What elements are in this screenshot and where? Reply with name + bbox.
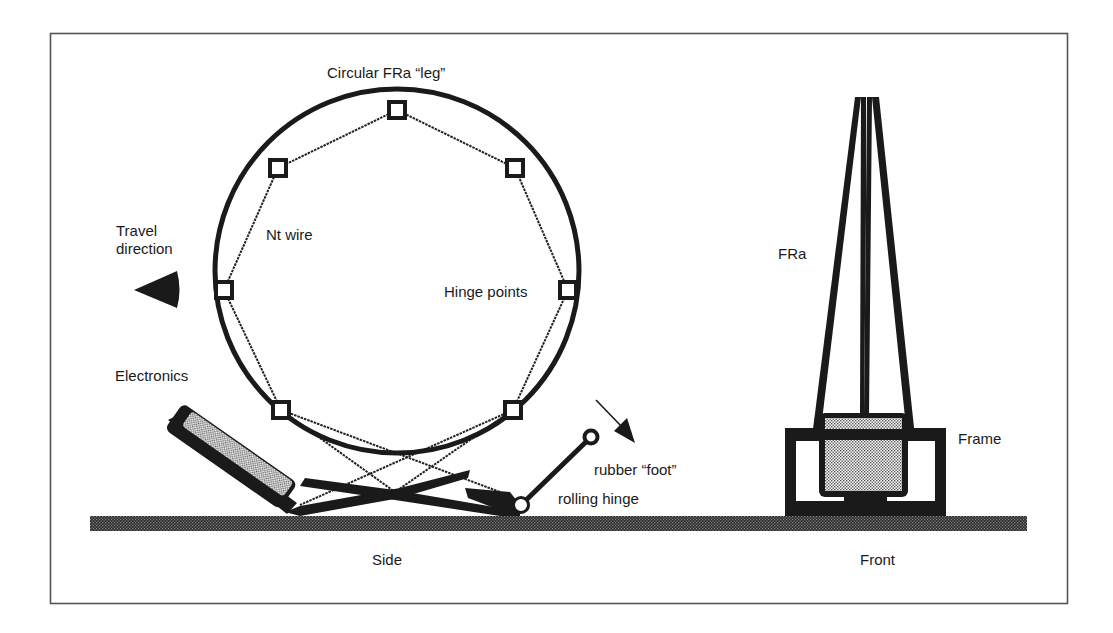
- ground-surface: [90, 516, 1027, 531]
- hinge-point-bottom-right: [505, 402, 521, 418]
- rolling-hinge: [514, 498, 529, 513]
- label-hinge-points: Hinge points: [444, 283, 527, 301]
- circular-fra-leg: [215, 89, 579, 453]
- fra-leg-right: [872, 97, 915, 437]
- leg-crossing: [285, 470, 520, 516]
- label-travel-line1: Travel: [116, 222, 157, 240]
- hinge-points: [216, 102, 576, 418]
- rubber-foot: [585, 431, 598, 444]
- hinge-point-top-left: [270, 160, 286, 176]
- front-view: [785, 97, 946, 516]
- hinge-point-top: [389, 102, 405, 118]
- label-circular-fra-leg: Circular FRa “leg”: [327, 64, 445, 82]
- hinge-point-left: [216, 282, 232, 298]
- label-rolling-hinge: rolling hinge: [558, 490, 639, 508]
- foot-motion-arrow-icon: [596, 400, 635, 443]
- label-travel-line2: direction: [116, 240, 173, 258]
- label-fra: FRa: [778, 245, 806, 263]
- fra-leg-left: [812, 97, 861, 437]
- label-nt-wire: Nt wire: [266, 226, 313, 244]
- hinge-point-bottom-left: [273, 402, 289, 418]
- diagram-canvas: [0, 0, 1113, 633]
- caption-side: Side: [372, 551, 402, 569]
- side-view: [134, 89, 635, 516]
- travel-direction-arrow-icon: [134, 271, 180, 308]
- caption-front: Front: [860, 551, 895, 569]
- hinge-point-top-right: [507, 160, 523, 176]
- hinge-point-right: [560, 282, 576, 298]
- label-frame: Frame: [958, 430, 1001, 448]
- label-electronics: Electronics: [115, 367, 188, 385]
- label-rubber-foot: rubber “foot”: [594, 461, 677, 479]
